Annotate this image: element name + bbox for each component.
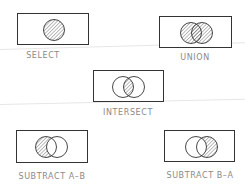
- subtract-b-a-label: SUBTRACT B–A: [166, 171, 233, 180]
- intersect-diagram: [93, 70, 164, 102]
- subtract-b-a-circles-icon: [165, 131, 236, 163]
- select-label: SELECT: [26, 51, 60, 60]
- union-label: UNION: [180, 53, 209, 62]
- subtract-a-b-diagram: [16, 130, 88, 163]
- union-circles-icon: [160, 17, 233, 49]
- intersect-label: INTERSECT: [103, 108, 153, 117]
- single-circle-icon: [18, 14, 90, 46]
- intersect-circles-icon: [94, 71, 165, 103]
- subtract-a-b-circles-icon: [17, 131, 89, 164]
- subtract-b-a-diagram: [164, 130, 235, 162]
- select-diagram: [17, 13, 89, 45]
- subtract-a-b-label: SUBTRACT A–B: [18, 172, 85, 181]
- union-diagram: [159, 16, 232, 48]
